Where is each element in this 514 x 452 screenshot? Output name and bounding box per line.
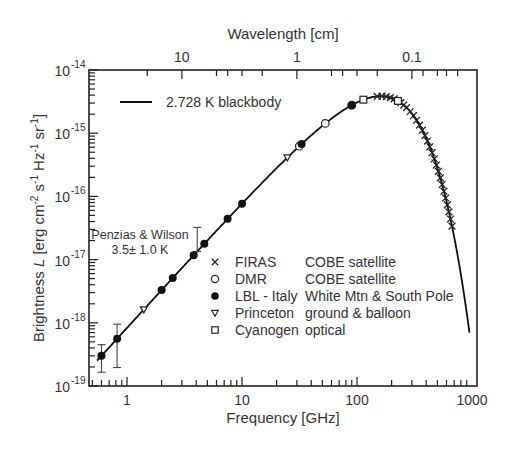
svg-text:Brightness L [erg cm-2 s-1 Hz-: Brightness L [erg cm-2 s-1 Hz-1 sr-1]	[29, 114, 47, 342]
svg-text:-15: -15	[71, 122, 86, 133]
top-axis-title: Wavelength [cm]	[227, 25, 338, 42]
bottom-axis-title: Frequency [GHz]	[226, 409, 339, 426]
svg-text:Penzias & Wilson: Penzias & Wilson	[91, 228, 188, 242]
svg-text:3.5± 1.0 K: 3.5± 1.0 K	[112, 243, 170, 257]
svg-text:1: 1	[123, 392, 131, 408]
svg-text:10: 10	[54, 126, 70, 142]
svg-text:10: 10	[54, 63, 70, 79]
svg-text:10: 10	[54, 253, 70, 269]
legend-item-dmr: DMRCOBE satellite	[211, 271, 396, 287]
svg-text:Cyanogen: Cyanogen	[235, 322, 299, 338]
cmb-spectrum-chart: 11010010001010.110-1410-1510-1610-1710-1…	[0, 0, 514, 452]
legend-markers: FIRASCOBE satelliteDMRCOBE satelliteLBL …	[211, 254, 454, 338]
svg-text:COBE satellite: COBE satellite	[305, 271, 396, 287]
svg-text:ground & balloon: ground & balloon	[305, 305, 411, 321]
legend-item-lbl-italy: LBL - ItalyWhite Mtn & South Pole	[211, 288, 454, 304]
svg-text:White Mtn & South Pole: White Mtn & South Pole	[305, 288, 454, 304]
svg-text:1000: 1000	[456, 392, 487, 408]
svg-text:COBE satellite: COBE satellite	[305, 254, 396, 270]
svg-text:2.728 K blackbody: 2.728 K blackbody	[166, 94, 281, 110]
svg-text:optical: optical	[305, 322, 345, 338]
svg-text:LBL - Italy: LBL - Italy	[235, 288, 298, 304]
series-firas	[374, 93, 456, 230]
svg-text:DMR: DMR	[235, 271, 267, 287]
svg-text:-16: -16	[71, 185, 86, 196]
svg-text:100: 100	[345, 392, 369, 408]
y-axis-title: Brightness L [erg cm-2 s-1 Hz-1 sr-1]	[29, 114, 47, 342]
legend-curve: 2.728 K blackbody	[120, 94, 281, 110]
svg-text:10: 10	[54, 379, 70, 395]
svg-text:-17: -17	[71, 249, 86, 260]
legend-item-firas: FIRASCOBE satellite	[212, 254, 396, 270]
svg-text:10: 10	[54, 316, 70, 332]
svg-text:-19: -19	[71, 375, 86, 386]
legend-item-princeton: Princetonground & balloon	[212, 305, 411, 321]
svg-text:-14: -14	[71, 59, 86, 70]
svg-text:10: 10	[174, 49, 190, 65]
svg-text:10: 10	[234, 392, 250, 408]
penzias-wilson-annotation: Penzias & Wilson 3.5± 1.0 K	[91, 228, 188, 257]
svg-text:FIRAS: FIRAS	[235, 254, 276, 270]
svg-text:-18: -18	[71, 312, 86, 323]
legend-item-cyanogen: Cyanogenoptical	[212, 322, 346, 338]
svg-text:0.1: 0.1	[402, 49, 422, 65]
svg-text:1: 1	[293, 49, 301, 65]
svg-text:Princeton: Princeton	[235, 305, 294, 321]
svg-text:10: 10	[54, 189, 70, 205]
